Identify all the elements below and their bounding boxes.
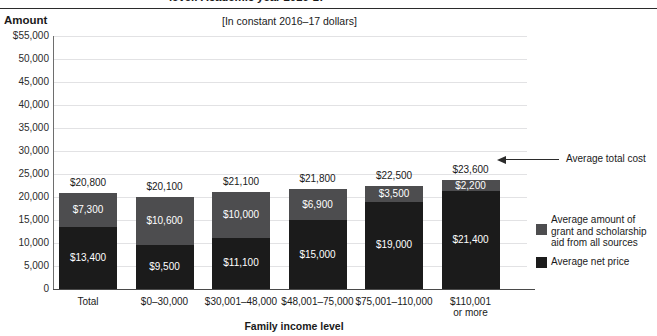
legend-label-grant-line1: Average amount of xyxy=(551,214,656,226)
bar-segment-grant-aid[interactable]: $3,500 xyxy=(365,186,423,202)
bar-segment-value-net-price: $21,400 xyxy=(442,234,500,245)
bar-segment-net-price[interactable]: $19,000 xyxy=(365,202,423,289)
bar-segment-value-grant-aid: $3,500 xyxy=(365,188,423,199)
bar-segment-value-grant-aid: $10,000 xyxy=(212,209,270,220)
bar-segment-net-price[interactable]: $13,400 xyxy=(59,227,117,289)
bar-group: $2,200$21,400$23,600 xyxy=(442,36,500,289)
y-axis-tick-label: 35,000 xyxy=(2,122,49,133)
y-axis-tick-label: 5,000 xyxy=(2,260,49,271)
y-axis-line xyxy=(53,36,54,290)
legend-item-grant-aid: Average amount of grant and scholarship … xyxy=(551,214,656,249)
stacked-bar[interactable]: $3,500$19,000 xyxy=(365,186,423,290)
legend-label-grant-line3: aid from all sources xyxy=(551,237,656,249)
legend-swatch-net-price-icon xyxy=(536,257,547,268)
x-axis-tick-label-line: $110,001 xyxy=(426,296,516,307)
bar-segment-value-grant-aid: $6,900 xyxy=(289,199,347,210)
chart-title: level: Academic year 2016-17 xyxy=(32,0,462,3)
bar-group: $6,900$15,000$21,800 xyxy=(289,36,347,289)
bar-segment-value-grant-aid: $7,300 xyxy=(59,204,117,215)
stacked-bar[interactable]: $2,200$21,400 xyxy=(442,180,500,289)
bar-segment-net-price[interactable]: $9,500 xyxy=(136,245,194,289)
legend-item-average-total-cost: Average total cost xyxy=(566,153,656,165)
bar-total-label: $21,100 xyxy=(198,176,284,187)
bar-segment-value-grant-aid: $10,600 xyxy=(136,215,194,226)
bar-segment-value-net-price: $19,000 xyxy=(365,239,423,250)
legend-label-net-price: Average net price xyxy=(551,256,656,268)
y-axis-tick-label: 0 xyxy=(2,283,49,294)
bar-segment-value-net-price: $9,500 xyxy=(136,261,194,272)
bar-segment-value-net-price: $11,100 xyxy=(212,257,270,268)
bar-total-label: $21,800 xyxy=(275,173,361,184)
legend-item-net-price: Average net price xyxy=(551,256,656,268)
stacked-bar[interactable]: $7,300$13,400 xyxy=(59,193,117,289)
arrow-line xyxy=(505,159,559,160)
legend-label-average-total-cost: Average total cost xyxy=(566,153,646,164)
y-axis-tick-label: 50,000 xyxy=(2,53,49,64)
x-axis-line xyxy=(53,289,535,290)
stacked-bar[interactable]: $10,600$9,500 xyxy=(136,197,194,289)
bar-group: $10,600$9,500$20,100 xyxy=(136,36,194,289)
bar-total-label: $22,500 xyxy=(351,170,437,181)
bar-segment-net-price[interactable]: $11,100 xyxy=(212,238,270,289)
x-axis-tick-label-line: or more xyxy=(426,307,516,318)
stacked-bar[interactable]: $6,900$15,000 xyxy=(289,189,347,289)
bar-group: $7,300$13,400$20,800 xyxy=(59,36,117,289)
y-axis-tick-label: $55,000 xyxy=(2,30,49,41)
bar-segment-net-price[interactable]: $15,000 xyxy=(289,220,347,289)
y-axis-tick-label: 45,000 xyxy=(2,76,49,87)
y-axis-tick-label: 30,000 xyxy=(2,145,49,156)
bar-segment-grant-aid[interactable]: $10,600 xyxy=(136,197,194,246)
bar-segment-value-net-price: $13,400 xyxy=(59,252,117,263)
stacked-bar[interactable]: $10,000$11,100 xyxy=(212,192,270,289)
bar-total-label: $23,600 xyxy=(428,164,514,175)
legend-label-grant-line2: grant and scholarship xyxy=(551,226,656,238)
x-axis-tick-label: $110,001or more xyxy=(426,296,516,318)
bar-segment-grant-aid[interactable]: $6,900 xyxy=(289,189,347,221)
x-axis-title: Family income level xyxy=(53,320,535,332)
bar-segment-value-net-price: $15,000 xyxy=(289,249,347,260)
bar-group: $10,000$11,100$21,100 xyxy=(212,36,270,289)
bar-segment-net-price[interactable]: $21,400 xyxy=(442,191,500,289)
bar-segment-grant-aid[interactable]: $2,200 xyxy=(442,180,500,190)
chart-subtitle: [In constant 2016–17 dollars] xyxy=(222,15,357,27)
average-total-cost-callout-arrow xyxy=(497,155,559,164)
y-axis-title: Amount xyxy=(4,14,47,26)
title-divider xyxy=(0,8,657,9)
y-axis-tick-label: 25,000 xyxy=(2,168,49,179)
plot-area: $7,300$13,400$20,800$10,600$9,500$20,100… xyxy=(53,36,527,289)
y-axis-tick-label: 10,000 xyxy=(2,237,49,248)
legend-swatch-grant-icon xyxy=(536,224,547,235)
bar-segment-grant-aid[interactable]: $7,300 xyxy=(59,193,117,227)
bar-total-label: $20,800 xyxy=(45,177,131,188)
y-axis-tick-label: 15,000 xyxy=(2,214,49,225)
bar-total-label: $20,100 xyxy=(122,181,208,192)
bar-group: $3,500$19,000$22,500 xyxy=(365,36,423,289)
y-axis-tick-label: 20,000 xyxy=(2,191,49,202)
bar-segment-grant-aid[interactable]: $10,000 xyxy=(212,192,270,238)
bar-segment-value-grant-aid: $2,200 xyxy=(442,180,500,191)
y-axis-tick-label: 40,000 xyxy=(2,99,49,110)
